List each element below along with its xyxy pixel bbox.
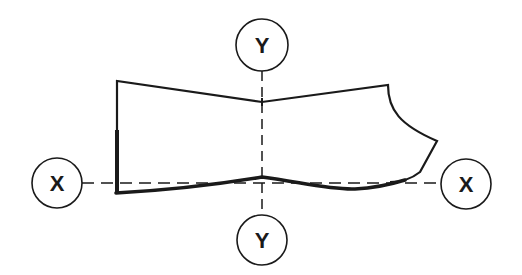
- y-axis-bottom-marker: Y: [237, 215, 287, 265]
- x-left-label: X: [50, 171, 65, 196]
- x-right-label: X: [459, 172, 474, 197]
- y-top-label: Y: [255, 33, 270, 58]
- x-axis-left-marker: X: [32, 158, 82, 208]
- y-axis-top-marker: Y: [236, 19, 288, 71]
- y-bottom-label: Y: [255, 228, 270, 253]
- pattern-outline: [116, 81, 437, 193]
- x-axis-right-marker: X: [441, 159, 491, 209]
- diagram-canvas: Y Y X X: [0, 0, 522, 275]
